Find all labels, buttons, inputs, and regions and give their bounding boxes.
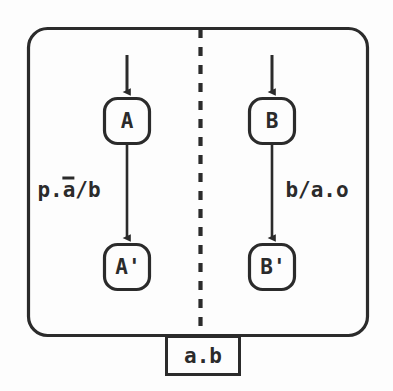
edge-label-left-suffix: /b <box>75 178 100 202</box>
node-b-label: B <box>266 111 279 132</box>
edge-label-right: b/a.o <box>285 180 348 201</box>
node-a-label: A <box>121 111 134 132</box>
port-box-label: a.b <box>184 346 222 367</box>
node-bprime-label: B' <box>260 257 285 278</box>
node-aprime-label: A' <box>115 257 140 278</box>
edge-label-left-overbarred-symbol: a <box>63 180 76 201</box>
edge-label-left: p.a/b <box>37 180 100 201</box>
edge-label-left-prefix: p. <box>37 178 62 202</box>
diagram-canvas: A A' B B' p.a/b b/a.o a.b <box>0 0 393 391</box>
